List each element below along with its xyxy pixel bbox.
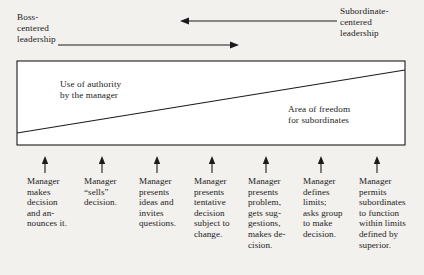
use-of-authority-label: Use of authority by the manager	[60, 79, 121, 102]
subordinate-centered-leadership-label: Subordinate- centered leadership	[340, 6, 389, 40]
step-label-1: Manager makes decision and an- nounces i…	[27, 176, 79, 229]
step-label-5: Manager presents problem, gets sug- gest…	[248, 176, 302, 250]
step-label-2: Manager “sells” decision.	[84, 176, 136, 208]
boss-centered-leadership-label: Boss- centered leadership	[17, 12, 56, 46]
tick-arrow-6	[318, 156, 324, 173]
arrow-toward-subordinate-centered	[67, 42, 239, 49]
area-of-freedom-label: Area of freedom for subordinates	[288, 104, 350, 127]
leadership-continuum-diagram: Boss- centered leadership Subordinate- c…	[0, 0, 424, 275]
step-label-4: Manager presents tentative decision subj…	[194, 176, 248, 240]
continuum-box	[17, 61, 405, 145]
tick-arrow-5	[263, 156, 269, 173]
arrow-toward-boss-centered	[180, 18, 337, 25]
tick-arrow-7	[374, 156, 380, 173]
step-label-7: Manager permits subordinates to function…	[359, 176, 421, 250]
tick-arrow-4	[209, 156, 215, 173]
tick-arrow-3	[154, 156, 160, 173]
step-label-3: Manager presents ideas and invites quest…	[139, 176, 195, 229]
step-label-6: Manager defines limits; asks group to ma…	[303, 176, 359, 240]
tick-arrow-1	[42, 156, 48, 173]
axis-tick-arrows	[42, 156, 380, 173]
tick-arrow-2	[99, 156, 105, 173]
